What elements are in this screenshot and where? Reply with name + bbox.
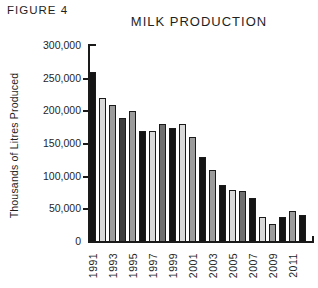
- y-tick-label-300,000: 300,000: [21, 40, 81, 51]
- bar-2001: [189, 137, 196, 242]
- y-axis-title: Thousands of Litres Produced: [8, 61, 21, 231]
- y-tick-label-200,000: 200,000: [21, 105, 81, 116]
- bar-2010: [279, 217, 286, 242]
- y-tick-label-50,000: 50,000: [21, 203, 81, 214]
- bar-2012: [299, 215, 306, 242]
- x-tick-label-2005: 2005: [228, 248, 239, 284]
- y-tick-200,000: [83, 110, 88, 112]
- x-tick-label-2007: 2007: [248, 248, 259, 284]
- bar-2007: [249, 198, 256, 242]
- bar-2006: [239, 191, 246, 242]
- bar-1992: [99, 98, 106, 242]
- y-tick-label-150,000: 150,000: [21, 138, 81, 149]
- bar-2004: [219, 185, 226, 242]
- x-tick-label-2001: 2001: [188, 248, 199, 284]
- bar-1991: [89, 72, 96, 242]
- x-tick-label-1991: 1991: [88, 248, 99, 284]
- y-tick-100,000: [83, 176, 88, 178]
- y-tick-label-100,000: 100,000: [21, 171, 81, 182]
- x-tick-label-1995: 1995: [128, 248, 139, 284]
- bar-1999: [169, 128, 176, 242]
- bar-2008: [259, 217, 266, 242]
- x-tick-label-1999: 1999: [168, 248, 179, 284]
- bar-2005: [229, 190, 236, 242]
- bar-1996: [139, 131, 146, 242]
- bar-1997: [149, 131, 156, 242]
- x-tick-label-2011: 2011: [288, 248, 299, 284]
- bar-2000: [179, 124, 186, 242]
- y-tick-250,000: [83, 78, 88, 80]
- x-tick-label-1997: 1997: [148, 248, 159, 284]
- bar-2002: [199, 157, 206, 242]
- x-axis-right-cap: [312, 236, 314, 243]
- bar-1995: [129, 111, 136, 242]
- bar-2003: [209, 170, 216, 242]
- bar-1998: [159, 124, 166, 242]
- bar-1994: [119, 118, 126, 242]
- bar-series: [89, 46, 311, 242]
- milk-production-bar-chart: Thousands of Litres Produced 050,000100,…: [0, 0, 318, 288]
- y-tick-label-250,000: 250,000: [21, 73, 81, 84]
- x-tick-label-2003: 2003: [208, 248, 219, 284]
- x-tick-label-1993: 1993: [108, 248, 119, 284]
- bar-2011: [289, 211, 296, 242]
- bar-1993: [109, 105, 116, 242]
- y-tick-label-0: 0: [21, 236, 81, 247]
- bar-2009: [269, 224, 276, 242]
- x-tick-label-2009: 2009: [268, 248, 279, 284]
- y-tick-150,000: [83, 143, 88, 145]
- y-tick-50,000: [83, 208, 88, 210]
